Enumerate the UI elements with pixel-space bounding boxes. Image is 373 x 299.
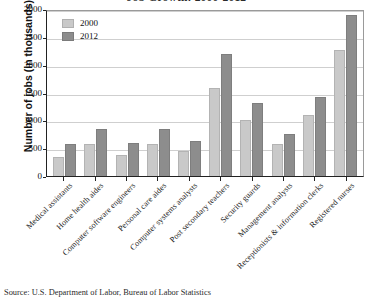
bar-2000	[116, 155, 127, 176]
y-tick-label: 2000	[0, 60, 42, 70]
x-tick-label: Post secondary teachers	[168, 181, 231, 244]
bar-group	[299, 11, 330, 176]
bar-2012	[252, 103, 263, 176]
y-tick-label: 500	[0, 143, 42, 153]
legend-item-2012: 2012	[62, 31, 98, 41]
bar-group	[205, 11, 236, 176]
bar-2012	[190, 141, 201, 176]
bar-2012	[128, 143, 139, 176]
bar-2000	[178, 151, 189, 176]
legend-swatch-2000	[62, 19, 74, 28]
source-note: Source: U.S. Department of Labor, Bureau…	[4, 288, 211, 297]
bar-2012	[346, 15, 357, 176]
bar-group	[236, 11, 267, 176]
y-tick-label: 0	[0, 171, 42, 181]
y-tick-label: 1000	[0, 115, 42, 125]
bar-2012	[159, 129, 170, 176]
legend-label-2000: 2000	[80, 18, 98, 28]
bar-2000	[334, 50, 345, 176]
bar-2000	[147, 144, 158, 176]
x-axis-tick-labels: Medical assistantsHome health aidesCompu…	[46, 181, 364, 281]
bar-group	[267, 11, 298, 176]
y-tick-label: 1500	[0, 88, 42, 98]
y-tick-label: 3000	[0, 4, 42, 14]
bar-2012	[65, 144, 76, 176]
bar-group	[111, 11, 142, 176]
legend-swatch-2012	[62, 32, 74, 41]
bar-2000	[84, 144, 95, 176]
bar-group	[174, 11, 205, 176]
x-tick-label: Management analysts	[236, 181, 294, 239]
bar-2000	[53, 157, 64, 176]
bar-group	[143, 11, 174, 176]
bar-2012	[221, 54, 232, 176]
bar-2000	[303, 115, 314, 176]
legend-label-2012: 2012	[80, 31, 98, 41]
y-tick-label: 2500	[0, 32, 42, 42]
bar-2000	[240, 120, 251, 176]
bar-group	[330, 11, 361, 176]
chart-legend: 2000 2012	[62, 18, 98, 41]
bar-2012	[284, 134, 295, 176]
legend-item-2000: 2000	[62, 18, 98, 28]
job-growth-bar-chart: Job Growth: 2000-2012 Number of jobs (in…	[0, 0, 373, 299]
bar-2012	[315, 97, 326, 176]
bar-2012	[96, 129, 107, 176]
bar-2000	[209, 88, 220, 177]
bar-2000	[272, 144, 283, 176]
